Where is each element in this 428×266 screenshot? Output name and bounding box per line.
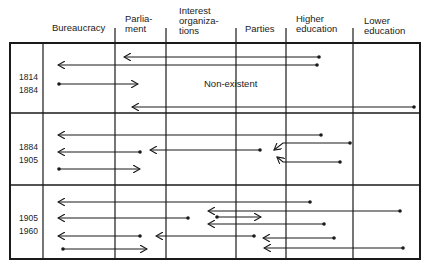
arrow-origin-dot: [338, 160, 342, 164]
header-interest-organizations: Interest organiza- tions: [179, 6, 219, 36]
arrow-origin-dot: [186, 216, 190, 220]
header-lower-education: Lower education: [364, 16, 405, 36]
arrow-origin-dot: [315, 63, 319, 67]
arrow-origin-dot: [57, 82, 61, 86]
political-recruitment-diagram: [0, 0, 428, 266]
grid: [10, 43, 420, 259]
arrow-origin-dot: [412, 105, 416, 109]
arrow-origin-dot: [138, 234, 142, 238]
period-label-1884-1905: 1884 1905: [19, 141, 38, 167]
arrow-origin-dot: [252, 234, 256, 238]
header-higher-education: Higher education: [296, 14, 337, 34]
arrow-origin-dot: [308, 200, 312, 204]
header-parliament: Parlia- ment: [125, 14, 152, 34]
period-label-1905-1960: 1905 1960: [19, 212, 38, 238]
arrow-origin-dot: [215, 215, 219, 219]
arrow-origin-dot: [317, 55, 321, 59]
header-bureaucracy: Bureaucracy: [52, 23, 105, 33]
arrow-origin-dot: [398, 209, 402, 213]
arrow-origin-dot: [57, 167, 61, 171]
non-existent-note: Non-existent: [204, 78, 257, 89]
arrow-origin-dot: [322, 222, 326, 226]
arrow-origin-dot: [319, 133, 323, 137]
arrow-origin-dot: [61, 247, 65, 251]
header-parties: Parties: [245, 24, 275, 34]
grid-outer-border: [10, 43, 420, 259]
period-label-1814-1884: 1814 1884: [19, 71, 38, 97]
arrow-origin-dot: [332, 236, 336, 240]
arrow-origin-dot: [138, 150, 142, 154]
arrow-origin-dot: [401, 246, 405, 250]
arrow-origin-dot: [348, 141, 352, 145]
arrow-origin-dot: [258, 148, 262, 152]
